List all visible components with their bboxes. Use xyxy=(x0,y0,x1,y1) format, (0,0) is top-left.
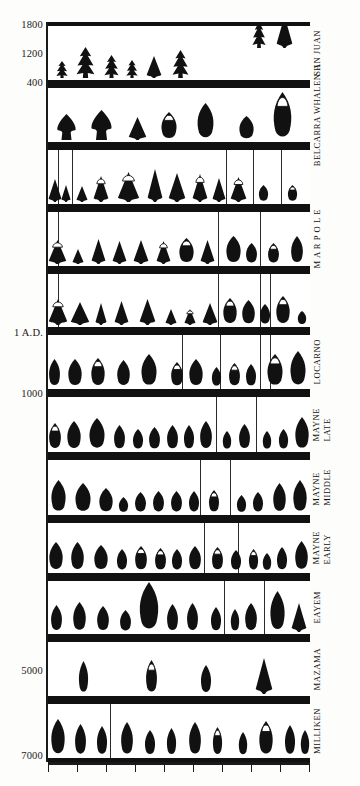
band-belcarra-whalen xyxy=(48,84,310,146)
projectile-point xyxy=(266,354,284,387)
projectile-point xyxy=(112,241,127,264)
x-axis-tick-0 xyxy=(48,765,49,772)
projectile-point xyxy=(230,177,247,202)
projectile-point xyxy=(248,549,259,571)
period-label-line: MAYNE xyxy=(312,469,322,506)
projectile-point xyxy=(145,660,158,694)
x-axis-tick-8 xyxy=(280,765,281,772)
projectile-point xyxy=(186,603,199,632)
y-axis-tick-label-6: 7000 xyxy=(21,751,43,762)
band-inner xyxy=(48,88,310,142)
projectile-point xyxy=(252,22,266,48)
projectile-point xyxy=(269,591,286,632)
band-divider-1 xyxy=(264,581,265,634)
projectile-point xyxy=(126,60,138,78)
y-axis-labels: 180012004001 A.D.100050007000 xyxy=(0,0,46,786)
projectile-point xyxy=(210,607,222,632)
period-label-stack: MIDDLEMAYNE xyxy=(312,469,333,506)
y-axis-tick-label-5: 5000 xyxy=(21,666,43,677)
projectile-point xyxy=(117,172,140,202)
projectile-point xyxy=(88,418,106,450)
band-divider-0 xyxy=(200,460,201,515)
x-axis-tick-6 xyxy=(222,765,223,772)
projectile-point xyxy=(160,112,178,140)
projectile-point xyxy=(154,548,167,571)
projectile-point xyxy=(200,665,212,694)
projectile-point xyxy=(287,185,298,202)
projectile-point xyxy=(238,116,255,140)
projectile-point xyxy=(144,730,156,756)
projectile-point xyxy=(76,47,95,78)
projectile-point xyxy=(50,719,66,756)
projectile-point xyxy=(258,721,274,756)
band-inner xyxy=(48,150,310,204)
x-axis-tick-1 xyxy=(77,765,78,772)
period-label-line: M A R P O L E xyxy=(312,209,323,269)
projectile-point xyxy=(170,362,184,387)
band-inner xyxy=(48,581,310,634)
projectile-point xyxy=(50,605,63,632)
band-inner xyxy=(48,335,310,389)
period-label-stack: M A R P O L E xyxy=(312,209,323,269)
projectile-point xyxy=(98,488,114,513)
projectile-point xyxy=(170,491,183,513)
band-divider-0 xyxy=(110,704,111,758)
projectile-point xyxy=(48,359,61,387)
band-locarno xyxy=(48,331,310,393)
projectile-point xyxy=(238,424,251,450)
projectile-point xyxy=(147,169,163,202)
projectile-point xyxy=(208,490,220,513)
band-middle-mayne xyxy=(48,456,310,519)
period-eayem-label: EAYEM xyxy=(312,577,358,638)
period-label-line: EAYEM xyxy=(312,591,323,624)
projectile-point xyxy=(146,56,162,78)
projectile-point xyxy=(278,429,289,450)
projectile-point xyxy=(61,185,71,202)
period-label-stack: EARLYMAYNE xyxy=(312,531,333,564)
projectile-point xyxy=(96,726,108,756)
period-labels: SAN JUANBELCARRA WHALEN IIM A R P O L EL… xyxy=(312,0,360,786)
projectile-point xyxy=(165,309,177,325)
band-inner xyxy=(48,274,310,327)
projectile-point xyxy=(199,421,213,450)
projectile-point xyxy=(202,303,218,325)
projectile-point xyxy=(48,299,68,325)
period-middle-mayne-label: MIDDLEMAYNE xyxy=(312,456,358,519)
projectile-point xyxy=(113,425,126,450)
projectile-point xyxy=(290,236,304,264)
band-marpole-a xyxy=(48,146,310,208)
projectile-point xyxy=(262,431,272,450)
projectile-point xyxy=(76,186,88,202)
projectile-point xyxy=(244,603,258,632)
projectile-point xyxy=(168,173,186,202)
projectile-point xyxy=(183,425,195,450)
projectile-point xyxy=(74,724,87,756)
band-divider-1 xyxy=(230,460,231,515)
projectile-point xyxy=(184,309,196,325)
x-axis-tick-3 xyxy=(135,765,136,772)
band-marpole-c xyxy=(48,270,310,331)
projectile-point xyxy=(289,351,307,387)
projectile-point xyxy=(67,359,83,387)
projectile-point xyxy=(116,360,131,387)
projectile-point xyxy=(93,545,109,571)
period-label-stack: LOCARNO xyxy=(312,339,323,384)
period-label-line: EARLY xyxy=(323,531,333,564)
projectile-point xyxy=(245,243,258,264)
projectile-point xyxy=(48,179,62,202)
band-divider-1 xyxy=(218,274,219,327)
period-label-line: MIDDLE xyxy=(323,469,333,506)
band-inner xyxy=(48,704,310,758)
projectile-point xyxy=(93,176,109,202)
projectile-point xyxy=(72,602,87,632)
projectile-point xyxy=(178,238,195,264)
period-label-stack: MILLIKEN xyxy=(312,708,323,754)
band-inner xyxy=(48,212,310,266)
band-marpole-b xyxy=(48,208,310,270)
band-san-juan xyxy=(48,22,310,84)
band-divider-3 xyxy=(253,150,254,204)
band-divider-2 xyxy=(260,335,261,389)
projectile-point xyxy=(134,546,148,571)
band-inner xyxy=(48,397,310,452)
band-late-mayne xyxy=(48,393,310,456)
